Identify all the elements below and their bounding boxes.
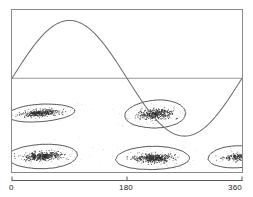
scatter-point bbox=[49, 159, 50, 160]
scatter-point bbox=[164, 102, 165, 103]
scatter-point bbox=[71, 154, 72, 155]
scatter-point bbox=[160, 157, 161, 158]
scatter-point bbox=[174, 155, 175, 156]
scatter-point bbox=[231, 155, 232, 156]
scatter-point bbox=[126, 156, 127, 157]
scatter-point bbox=[55, 157, 56, 158]
scatter-point bbox=[176, 150, 177, 151]
scatter-point bbox=[147, 156, 148, 157]
scatter-point bbox=[141, 156, 142, 157]
scatter-point bbox=[169, 159, 170, 160]
scatter-point bbox=[175, 159, 176, 160]
scatter-point bbox=[27, 114, 28, 115]
scatter-point bbox=[143, 112, 144, 113]
scatter-point bbox=[43, 110, 44, 111]
scatter-point bbox=[44, 156, 45, 157]
scatter-point bbox=[49, 155, 50, 156]
scatter-point bbox=[151, 103, 152, 104]
scatter-point bbox=[36, 160, 37, 161]
scatter-point bbox=[154, 114, 155, 115]
scatter-point bbox=[52, 153, 53, 154]
scatter-point bbox=[149, 158, 150, 159]
scatter-point bbox=[168, 118, 169, 119]
scatter-point bbox=[134, 159, 135, 160]
scatter-point bbox=[126, 115, 127, 116]
scatter-point bbox=[55, 163, 56, 164]
scatter-point bbox=[150, 114, 151, 115]
scatter-point bbox=[154, 113, 155, 114]
scatter-point bbox=[148, 118, 149, 119]
scatter-point bbox=[156, 158, 157, 159]
scatter-point bbox=[139, 161, 140, 162]
scatter-point bbox=[66, 158, 67, 159]
plot-canvas bbox=[0, 0, 253, 197]
scatter-point bbox=[161, 111, 162, 112]
scatter-point bbox=[236, 161, 237, 162]
scatter-point bbox=[165, 154, 166, 155]
scatter-point bbox=[170, 151, 171, 152]
scatter-point bbox=[139, 152, 140, 153]
scatter-point bbox=[149, 159, 150, 160]
scatter-point bbox=[224, 151, 225, 152]
scatter-point bbox=[184, 147, 185, 148]
scatter-point bbox=[173, 110, 174, 111]
scatter-point bbox=[146, 162, 147, 163]
scatter-point bbox=[39, 159, 40, 160]
scatter-point bbox=[156, 156, 157, 157]
scatter-point bbox=[82, 105, 83, 106]
scatter-point bbox=[162, 118, 163, 119]
scatter-point bbox=[161, 118, 162, 119]
scatter-point bbox=[165, 115, 166, 116]
scatter-point bbox=[215, 155, 216, 156]
scatter-point bbox=[179, 164, 180, 165]
scatter-point bbox=[148, 161, 149, 162]
scatter-point bbox=[162, 154, 163, 155]
scatter-point bbox=[143, 117, 144, 118]
scatter-point bbox=[153, 158, 154, 159]
scatter-point bbox=[144, 118, 145, 119]
scatter-point bbox=[152, 161, 153, 162]
scatter-point bbox=[136, 114, 137, 115]
scatter-point bbox=[141, 150, 142, 151]
scatter-point bbox=[221, 158, 222, 159]
scatter-point bbox=[51, 156, 52, 157]
scatter-point bbox=[72, 150, 73, 151]
scatter-point bbox=[67, 114, 68, 115]
scatter-point bbox=[165, 118, 166, 119]
scatter-point bbox=[43, 115, 44, 116]
scatter-point bbox=[168, 153, 169, 154]
scatter-point bbox=[161, 158, 162, 159]
scatter-point bbox=[124, 153, 125, 154]
scatter-point bbox=[142, 117, 143, 118]
scatter-point bbox=[137, 115, 138, 116]
scatter-point bbox=[165, 159, 166, 160]
scatter-phase-figure: 0 180 360 bbox=[0, 0, 253, 197]
scatter-point bbox=[237, 151, 238, 152]
scatter-point bbox=[140, 117, 141, 118]
scatter-point bbox=[47, 109, 48, 110]
scatter-point bbox=[30, 118, 31, 119]
scatter-point bbox=[56, 157, 57, 158]
scatter-point bbox=[35, 109, 36, 110]
scatter-point bbox=[170, 114, 171, 115]
scatter-point bbox=[237, 160, 238, 161]
scatter-point bbox=[146, 160, 147, 161]
scatter-point bbox=[135, 120, 136, 121]
scatter-point bbox=[228, 153, 229, 154]
scatter-point bbox=[30, 161, 31, 162]
scatter-point bbox=[142, 114, 143, 115]
scatter-point bbox=[41, 111, 42, 112]
scatter-point bbox=[25, 152, 26, 153]
scatter-point bbox=[141, 163, 142, 164]
scatter-point bbox=[176, 157, 177, 158]
scatter-point bbox=[25, 156, 26, 157]
scatter-point bbox=[48, 111, 49, 112]
scatter-point bbox=[150, 121, 151, 122]
scatter-point bbox=[72, 151, 73, 152]
scatter-point bbox=[152, 120, 153, 121]
scatter-point bbox=[146, 115, 147, 116]
scatter-point bbox=[33, 117, 34, 118]
scatter-point bbox=[135, 115, 136, 116]
scatter-point bbox=[142, 106, 143, 107]
scatter-point bbox=[46, 109, 47, 110]
